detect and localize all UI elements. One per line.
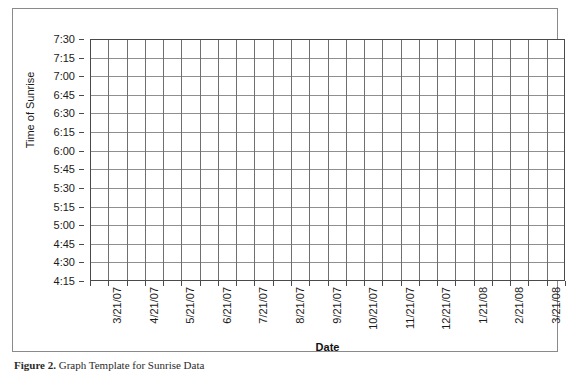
- gridline-vertical: [254, 40, 255, 280]
- x-tick-mark: [455, 281, 456, 286]
- gridline-vertical: [437, 40, 438, 280]
- gridline-vertical: [291, 40, 292, 280]
- x-tick-mark: [437, 281, 438, 286]
- x-tick-mark: [163, 281, 164, 286]
- y-tick-label: 4:30: [54, 257, 75, 268]
- x-tick-label: 6/21/07: [222, 287, 233, 324]
- gridline-vertical: [528, 40, 529, 280]
- gridline-vertical: [419, 40, 420, 280]
- y-tick-mark: [79, 207, 84, 208]
- y-tick-label: 5:30: [54, 182, 75, 193]
- y-tick-mark: [79, 58, 84, 59]
- y-tick-label: 7:00: [54, 71, 75, 82]
- x-axis-label-group: 3/21/074/21/075/21/076/21/077/21/078/21/…: [90, 287, 565, 343]
- figure-frame: Time of Sunrise 7:307:157:006:456:306:15…: [12, 8, 558, 352]
- plot-area: [90, 39, 565, 281]
- x-tick-mark: [474, 281, 475, 286]
- x-tick-mark: [492, 281, 493, 286]
- x-tick-mark: [401, 281, 402, 286]
- x-tick-label: 11/21/07: [405, 287, 416, 329]
- gridline-vertical: [346, 40, 347, 280]
- x-tick-mark: [273, 281, 274, 286]
- x-tick-mark: [291, 281, 292, 286]
- figure-caption: Figure 2. Graph Template for Sunrise Dat…: [14, 359, 554, 371]
- y-tick-label: 6:00: [54, 145, 75, 156]
- x-tick-label: 1/21/08: [478, 287, 489, 324]
- x-tick-mark: [528, 281, 529, 286]
- gridline-vertical: [547, 40, 548, 280]
- x-tick-mark: [309, 281, 310, 286]
- gridline-vertical: [401, 40, 402, 280]
- x-tick-label: 3/21/08: [551, 287, 562, 324]
- x-tick-mark: [510, 281, 511, 286]
- y-tick-label: 6:45: [54, 89, 75, 100]
- gridline-vertical: [200, 40, 201, 280]
- gridline-vertical: [510, 40, 511, 280]
- x-tick-mark: [218, 281, 219, 286]
- gridline-vertical: [181, 40, 182, 280]
- y-tick-mark: [79, 188, 84, 189]
- y-tick-label: 5:45: [54, 164, 75, 175]
- y-tick-label: 5:15: [54, 201, 75, 212]
- gridline-vertical: [236, 40, 237, 280]
- y-tick-label: 6:15: [54, 127, 75, 138]
- x-tick-label: 4/21/07: [149, 287, 160, 324]
- y-tick-mark: [79, 225, 84, 226]
- x-tick-mark: [145, 281, 146, 286]
- gridline-vertical: [273, 40, 274, 280]
- x-tick-label: 3/21/07: [112, 287, 123, 324]
- x-tick-label: 12/21/07: [441, 287, 452, 330]
- x-tick-mark: [382, 281, 383, 286]
- gridline-vertical: [455, 40, 456, 280]
- x-tick-mark: [419, 281, 420, 286]
- x-tick-mark: [565, 281, 566, 286]
- x-tick-mark: [200, 281, 201, 286]
- y-tick-label: 7:15: [54, 52, 75, 63]
- y-tick-label: 4:45: [54, 238, 75, 249]
- gridline-vertical: [218, 40, 219, 280]
- y-tick-mark: [79, 76, 84, 77]
- x-tick-mark: [127, 281, 128, 286]
- x-tick-mark: [328, 281, 329, 286]
- x-tick-mark: [90, 281, 91, 286]
- x-tick-mark: [346, 281, 347, 286]
- y-tick-mark: [79, 244, 84, 245]
- y-tick-label: 5:00: [54, 220, 75, 231]
- y-tick-label: 6:30: [54, 108, 75, 119]
- y-tick-mark: [79, 169, 84, 170]
- y-tick-mark: [79, 262, 84, 263]
- x-tick-label: 10/21/07: [368, 287, 379, 330]
- gridline-vertical: [382, 40, 383, 280]
- figure-caption-text: Graph Template for Sunrise Data: [59, 359, 205, 371]
- x-tick-label: 5/21/07: [185, 287, 196, 324]
- gridline-vertical: [474, 40, 475, 280]
- y-tick-mark: [79, 95, 84, 96]
- y-tick-mark: [79, 151, 84, 152]
- y-tick-mark: [79, 113, 84, 114]
- gridline-vertical: [309, 40, 310, 280]
- x-tick-mark: [236, 281, 237, 286]
- y-tick-mark: [79, 132, 84, 133]
- y-tick-label: 4:15: [54, 276, 75, 287]
- gridline-vertical: [364, 40, 365, 280]
- gridline-vertical: [328, 40, 329, 280]
- x-tick-label: 9/21/07: [332, 287, 343, 324]
- x-tick-mark: [108, 281, 109, 286]
- x-tick-label: 7/21/07: [258, 287, 269, 324]
- x-tick-label: 8/21/07: [295, 287, 306, 324]
- x-axis-title: Date: [90, 341, 565, 353]
- y-tick-mark: [79, 39, 84, 40]
- gridline-vertical: [163, 40, 164, 280]
- x-tick-mark: [547, 281, 548, 286]
- y-tick-mark: [79, 281, 84, 282]
- gridline-vertical: [108, 40, 109, 280]
- gridline-vertical: [127, 40, 128, 280]
- y-axis-tick-group: 7:307:157:006:456:306:156:005:455:305:15…: [13, 39, 84, 281]
- gridline-vertical: [492, 40, 493, 280]
- x-tick-label: 2/21/08: [514, 287, 525, 324]
- figure-caption-label: Figure 2.: [14, 359, 56, 371]
- gridline-vertical: [145, 40, 146, 280]
- x-tick-mark: [364, 281, 365, 286]
- x-tick-mark: [181, 281, 182, 286]
- x-tick-mark: [254, 281, 255, 286]
